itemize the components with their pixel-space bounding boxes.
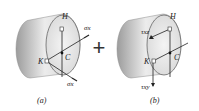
caption-a: (a): [37, 96, 47, 105]
plus-operator: +: [93, 35, 106, 60]
sigma-arrow-top: [84, 35, 89, 38]
element-h: [168, 27, 172, 31]
label-h: H: [169, 12, 177, 21]
center-point-c: [169, 52, 172, 55]
element-k: [152, 59, 156, 63]
label-c: C: [174, 53, 180, 62]
label-sigma-bottom: σx: [67, 80, 74, 88]
caption-b: (b): [150, 96, 160, 105]
panel-b: H K C τxz τxy (b): [117, 12, 188, 105]
label-tau-xy: τxy: [141, 83, 151, 91]
label-sigma-top: σx: [84, 24, 91, 32]
cylinder-end-face: [147, 15, 181, 75]
label-k: K: [143, 57, 150, 66]
element-k: [45, 59, 49, 63]
label-tau-xz: τxz: [141, 28, 150, 36]
stress-superposition-diagram: H K C σx σx (a) + H K C τxz τxy (b): [0, 0, 199, 111]
center-point-c: [61, 52, 64, 55]
panel-a: H K C σx σx (a): [16, 12, 91, 105]
tau-xy-arrowhead: [151, 83, 155, 87]
label-k: K: [37, 57, 44, 66]
cylinder-end-face: [46, 15, 80, 75]
element-h: [60, 27, 64, 31]
label-c: C: [65, 53, 71, 62]
